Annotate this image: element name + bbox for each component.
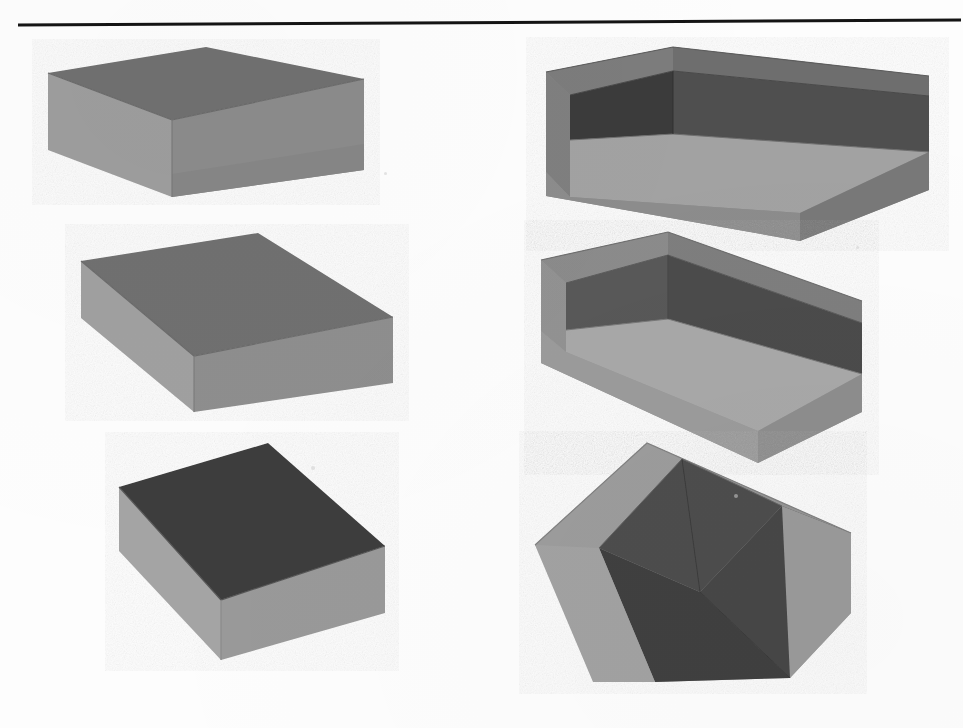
tray-outer-right-wall [782, 506, 851, 678]
open-box-middle-right [541, 232, 862, 463]
open-box-bottom-right [535, 443, 851, 682]
figure-page: Six rendered rectangular boxes Grayscale… [0, 0, 963, 728]
closed-box-bottom-left [119, 443, 385, 660]
boxes-illustration [0, 0, 963, 728]
scan-speck [856, 246, 859, 249]
closed-box-top-left [48, 47, 364, 197]
closed-box-middle-left [81, 233, 393, 412]
open-box-top-right [546, 47, 929, 241]
scan-speck [311, 466, 315, 470]
scan-speck [734, 494, 738, 498]
scan-speck [384, 172, 387, 175]
